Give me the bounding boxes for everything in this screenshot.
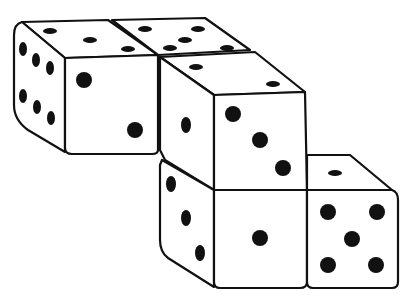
- pip: [178, 37, 192, 43]
- pip: [83, 37, 97, 43]
- pip: [181, 210, 191, 226]
- pip: [344, 231, 360, 247]
- pip: [33, 100, 41, 114]
- pip: [320, 204, 336, 220]
- pip: [127, 122, 143, 138]
- pip: [252, 132, 268, 148]
- dice-illustration: [0, 0, 411, 299]
- pip: [32, 53, 40, 67]
- pip: [43, 28, 57, 34]
- pip: [189, 64, 203, 70]
- die-bottom-right: [307, 155, 398, 288]
- pip: [225, 106, 241, 122]
- die-top-left-front-face: [65, 55, 158, 154]
- pip: [369, 204, 385, 220]
- pip: [138, 26, 152, 32]
- pip: [76, 72, 92, 88]
- pip: [163, 45, 177, 51]
- pip: [275, 160, 291, 176]
- pip: [191, 26, 205, 32]
- pip: [368, 257, 384, 273]
- pip: [46, 61, 54, 75]
- die-top-left: [14, 20, 158, 154]
- pip: [220, 45, 234, 51]
- die-bottom-right-top-face: [307, 155, 392, 190]
- pip: [47, 111, 55, 125]
- pip: [181, 117, 191, 133]
- pip: [266, 81, 280, 87]
- pip: [195, 245, 205, 261]
- pip: [328, 170, 342, 176]
- pip: [19, 89, 27, 103]
- pip: [121, 46, 135, 52]
- pip: [320, 257, 336, 273]
- pip: [166, 176, 176, 192]
- die-middle: [160, 52, 307, 190]
- pip: [19, 42, 27, 56]
- pip: [252, 230, 268, 246]
